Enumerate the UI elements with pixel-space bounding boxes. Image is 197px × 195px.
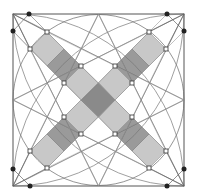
open-dot <box>28 47 32 51</box>
open-dot <box>62 81 66 85</box>
filled-dot <box>182 29 187 34</box>
open-dot <box>79 64 83 68</box>
open-dot <box>28 149 32 153</box>
filled-dot <box>182 167 187 172</box>
filled-dot <box>165 12 170 17</box>
open-dot <box>45 30 49 34</box>
open-dot <box>45 166 49 170</box>
open-dot <box>147 30 151 34</box>
open-dot <box>147 166 151 170</box>
open-dot <box>79 132 83 136</box>
open-dot <box>113 132 117 136</box>
tile-cross <box>30 32 166 168</box>
open-dot <box>130 81 134 85</box>
filled-dot <box>27 12 32 17</box>
open-dot <box>62 115 66 119</box>
open-dot <box>130 115 134 119</box>
geometric-diagram <box>0 0 197 195</box>
open-dot <box>164 149 168 153</box>
filled-dot <box>11 167 16 172</box>
filled-dot <box>165 184 170 189</box>
filled-dot <box>28 184 33 189</box>
open-dot <box>113 64 117 68</box>
open-dot <box>164 47 168 51</box>
filled-dot <box>11 29 16 34</box>
